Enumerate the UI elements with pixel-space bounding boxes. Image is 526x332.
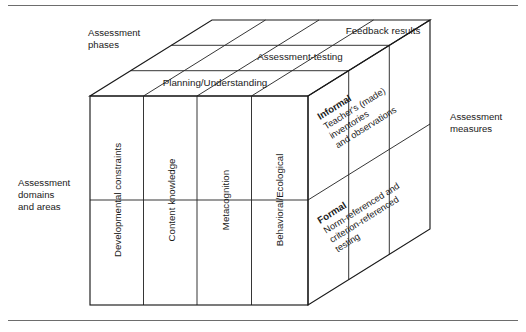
axis-label-assessment-phases-line-2: phases — [88, 39, 119, 50]
axis-label-assessment-domains-line-1: Assessment — [18, 177, 71, 188]
figure-container: Feedback results Assessment-testing Plan… — [0, 0, 526, 332]
axis-label-assessment-phases: Assessment phases — [88, 27, 141, 50]
axis-label-assessment-domains-line-3: and areas — [18, 201, 61, 212]
axis-label-assessment-measures-line-2: measures — [450, 123, 492, 134]
front-column-label-behavioral-ecological: Behavioral/Ecological — [274, 154, 285, 247]
front-column-label-metacognition: Metacognition — [220, 170, 231, 230]
axis-label-assessment-measures-line-1: Assessment — [450, 111, 503, 122]
axis-label-assessment-domains-line-2: domains — [18, 189, 54, 200]
top-band-label-planning: Planning/Understanding — [163, 77, 268, 88]
axis-label-assessment-domains: Assessment domains and areas — [18, 177, 71, 212]
front-column-label-developmental-constraints: Developmental constraints — [112, 143, 123, 257]
axis-label-assessment-phases-line-1: Assessment — [88, 27, 141, 38]
top-band-label-feedback: Feedback results — [346, 25, 421, 36]
front-column-label-content-knowledge: Content knowledge — [166, 159, 177, 242]
assessment-cube-diagram: Feedback results Assessment-testing Plan… — [0, 0, 526, 332]
axis-label-assessment-measures: Assessment measures — [450, 111, 503, 134]
top-band-label-assessment-testing: Assessment-testing — [257, 51, 342, 62]
